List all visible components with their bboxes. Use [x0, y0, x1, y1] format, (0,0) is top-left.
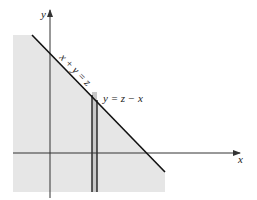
diagram-canvas: y x x + y = z y = z − x	[0, 0, 257, 200]
integration-strip	[92, 92, 97, 192]
y-axis-label: y	[40, 8, 46, 20]
shaded-region	[13, 35, 165, 192]
strip-label: y = z − x	[102, 92, 143, 104]
x-axis-label: x	[237, 153, 243, 165]
